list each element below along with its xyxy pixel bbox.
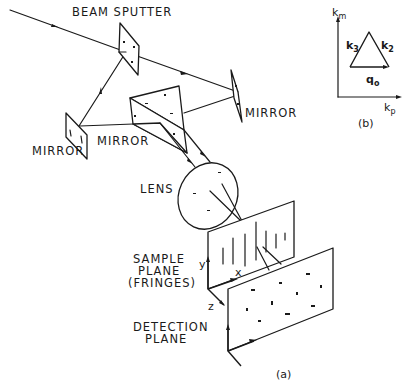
label-k2: k2 bbox=[381, 39, 394, 54]
reflected-beam bbox=[79, 52, 126, 126]
label-detection-plane-2: PLANE bbox=[145, 332, 187, 346]
beam-arrow-icon bbox=[180, 71, 188, 75]
label-beam-splitter: BEAM SPUTTER bbox=[72, 5, 172, 19]
mirror-right bbox=[231, 70, 242, 122]
label-q0: qo bbox=[366, 73, 380, 88]
label-mirror-right: MIRROR bbox=[245, 106, 297, 120]
label-lens: LENS bbox=[140, 182, 174, 196]
caption-a: (a) bbox=[276, 368, 291, 381]
panel-b: km kp k3 k2 qo (b) bbox=[332, 6, 402, 130]
optical-setup-diagram: BEAM SPUTTER MIRROR MIRROR MIRROR LENS S… bbox=[0, 0, 403, 384]
label-sample-plane-3: (FRINGES) bbox=[128, 276, 196, 290]
detection-z-axis bbox=[228, 351, 241, 366]
label-kp: kp bbox=[384, 101, 395, 116]
label-axis-y: y bbox=[199, 258, 206, 271]
beam-arrow-icon bbox=[187, 158, 193, 164]
beam-right-to-prism bbox=[184, 95, 238, 113]
panel-a: BEAM SPUTTER MIRROR MIRROR MIRROR LENS S… bbox=[10, 5, 333, 381]
beam-arrow-icon bbox=[200, 151, 206, 157]
label-axis-x: x bbox=[235, 266, 242, 279]
beam-splitter bbox=[119, 23, 139, 75]
label-mirror-prism: MIRROR bbox=[97, 134, 149, 148]
caption-b: (b) bbox=[358, 117, 374, 130]
label-axis-z: z bbox=[208, 300, 214, 313]
beam-arrow-icon bbox=[51, 24, 58, 27]
label-mirror-left: MIRROR bbox=[32, 144, 84, 158]
label-k3: k3 bbox=[346, 39, 359, 54]
label-km: km bbox=[332, 6, 346, 21]
